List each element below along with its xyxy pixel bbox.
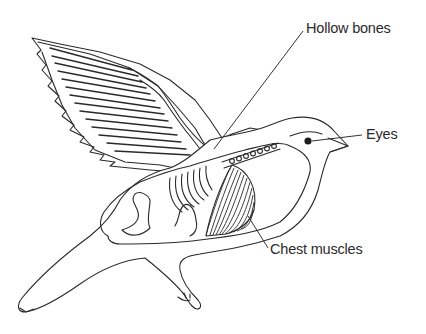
bird-anatomy-illustration <box>0 0 426 334</box>
eye <box>304 137 311 144</box>
label-chest-muscles: Chest muscles <box>270 241 363 257</box>
label-hollow-bones: Hollow bones <box>306 20 391 36</box>
label-eyes: Eyes <box>366 126 397 142</box>
